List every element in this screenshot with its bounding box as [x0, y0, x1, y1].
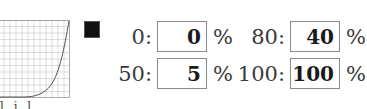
- field-unit-0: %: [213, 21, 233, 53]
- field-label-50: 50:: [110, 58, 152, 90]
- grid-lines: [0, 20, 70, 98]
- bottom-cutoff-text: l i l .: [0, 100, 48, 109]
- field-input-50[interactable]: [157, 58, 207, 89]
- curve-graph: [0, 20, 70, 98]
- field-input-80[interactable]: [290, 21, 340, 52]
- field-label-80: 80:: [236, 21, 285, 53]
- field-label-100: 100:: [236, 58, 285, 90]
- field-unit-100: %: [346, 58, 366, 90]
- field-label-0: 0:: [110, 21, 152, 53]
- field-input-0[interactable]: [157, 21, 207, 52]
- field-unit-50: %: [213, 58, 233, 90]
- field-input-100[interactable]: [290, 58, 340, 89]
- color-swatch[interactable]: [84, 21, 100, 38]
- field-unit-80: %: [346, 21, 366, 53]
